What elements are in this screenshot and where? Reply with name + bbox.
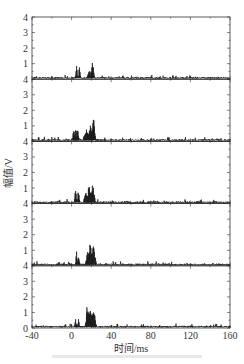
svg-text:2: 2 (23, 105, 28, 116)
panel-1 (32, 17, 230, 79)
waveform-trace (32, 307, 230, 327)
waveform-trace (32, 245, 230, 265)
svg-text:3: 3 (23, 89, 28, 100)
svg-text:3: 3 (23, 151, 28, 162)
svg-text:3: 3 (23, 27, 28, 38)
figure-caption-illegible (52, 355, 202, 358)
waveform-trace (32, 120, 230, 141)
waveform-trace (32, 63, 230, 79)
panel-5 (32, 266, 230, 328)
svg-text:1: 1 (23, 58, 28, 69)
waveform-trace (32, 186, 230, 203)
svg-text:3: 3 (23, 276, 28, 287)
svg-text:0: 0 (69, 330, 74, 341)
y-tick-labels: 123441234123412341230 (23, 12, 28, 334)
svg-text:1: 1 (23, 245, 28, 256)
svg-text:1: 1 (23, 120, 28, 131)
svg-text:2: 2 (23, 43, 28, 54)
svg-text:1: 1 (23, 307, 28, 318)
svg-text:4: 4 (23, 198, 28, 209)
panels-group (32, 17, 230, 328)
svg-text:4: 4 (23, 74, 28, 85)
svg-text:4: 4 (23, 260, 28, 271)
stacked-waveform-chart: 123441234123412341230 -4004080120160 时间/… (0, 0, 244, 364)
svg-text:3: 3 (23, 214, 28, 225)
svg-text:4: 4 (23, 12, 28, 23)
svg-text:40: 40 (106, 330, 116, 341)
y-axis-title: 幅值/V (2, 157, 14, 188)
x-axis-title: 时间/ms (114, 342, 149, 354)
svg-text:-40: -40 (25, 330, 38, 341)
panel-4 (32, 204, 230, 266)
svg-text:160: 160 (223, 330, 238, 341)
panel-2 (32, 79, 230, 141)
svg-text:2: 2 (23, 291, 28, 302)
svg-text:4: 4 (23, 136, 28, 147)
svg-text:80: 80 (146, 330, 156, 341)
panel-3 (32, 141, 230, 203)
svg-text:2: 2 (23, 229, 28, 240)
x-tick-labels: -4004080120160 (25, 330, 237, 341)
svg-text:120: 120 (183, 330, 198, 341)
svg-text:2: 2 (23, 167, 28, 178)
svg-text:1: 1 (23, 183, 28, 194)
